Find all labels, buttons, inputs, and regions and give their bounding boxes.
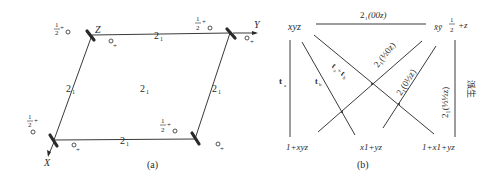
half-plus-marker-bottomright: 1 2 + xyxy=(160,117,177,134)
svg-text:+: + xyxy=(220,145,224,153)
half-plus-marker-topright: 1 2 + xyxy=(195,15,212,32)
screw-label-right: 2 1 xyxy=(212,83,221,95)
svg-text:1: 1 xyxy=(160,36,163,42)
svg-text:2: 2 xyxy=(140,83,145,94)
svg-text:+: + xyxy=(76,146,80,154)
screw-label-top: 2 1 xyxy=(154,30,163,42)
screw-label-bottom: 2 1 xyxy=(120,135,129,147)
z-axis-label: Z xyxy=(95,24,101,35)
svg-text:1: 1 xyxy=(196,15,200,23)
label-xyz: xyz xyxy=(287,21,301,32)
panel-a: Z Y X 2 1 2 1 2 1 2 1 2 1 1 2 + xyxy=(27,15,261,171)
label-1-plus-xyz: 1+xyz xyxy=(286,142,309,152)
svg-text:+: + xyxy=(250,38,254,46)
svg-text:t: t xyxy=(315,77,318,86)
diagonal-tb xyxy=(302,42,355,135)
screw-label-center: 2 1 xyxy=(140,83,149,95)
label-ta: t a xyxy=(279,76,287,88)
svg-text:2: 2 xyxy=(450,26,454,34)
svg-text:t: t xyxy=(279,76,282,86)
svg-text:2: 2 xyxy=(154,30,159,41)
plus-circle-marker-bottomright: + xyxy=(216,142,224,153)
diagonal-screw-0-half-z xyxy=(383,46,436,128)
panel-b-caption: (b) xyxy=(357,159,369,171)
svg-text:2: 2 xyxy=(28,121,32,129)
svg-text:b: b xyxy=(341,76,347,82)
svg-text:2: 2 xyxy=(212,83,217,94)
intersection-point xyxy=(341,111,343,113)
label-ta-plus-tb: t a + t b xyxy=(329,61,350,81)
svg-text:2: 2 xyxy=(55,29,59,37)
svg-text:+: + xyxy=(202,18,206,26)
svg-text:+z: +z xyxy=(458,20,468,30)
label-screw-half-half-z: 2₁(½½z) xyxy=(440,87,450,118)
panel-a-caption: (a) xyxy=(147,159,158,171)
intersection-point xyxy=(371,83,373,85)
svg-text:1: 1 xyxy=(161,117,165,125)
side-text-derived: 派生 xyxy=(466,80,477,98)
x-axis-label: X xyxy=(43,157,51,168)
half-plus-marker-topleft: 1 2 + xyxy=(54,21,70,37)
intersection-point xyxy=(398,103,400,105)
svg-text:1: 1 xyxy=(55,21,59,29)
panel-b: xyz 2 1 (00z) x̄ȳ 1 2 +z t a xyxy=(279,10,477,171)
svg-text:a: a xyxy=(284,83,287,88)
svg-text:2: 2 xyxy=(66,83,71,94)
svg-text:2: 2 xyxy=(360,10,365,20)
svg-text:+: + xyxy=(167,121,171,129)
svg-text:1: 1 xyxy=(28,113,32,121)
svg-text:2: 2 xyxy=(161,126,165,134)
svg-text:+: + xyxy=(60,24,64,32)
label-1-plus-x1-plus-yz: 1+x1+yz xyxy=(422,142,455,152)
svg-text:1: 1 xyxy=(72,89,75,95)
crystallographic-diagram: Z Y X 2 1 2 1 2 1 2 1 2 1 1 2 + xyxy=(0,0,494,181)
label-xbar-ybar-half-z: x̄ȳ 1 2 +z xyxy=(433,16,468,34)
screw-axis-icon xyxy=(192,133,199,144)
svg-text:1: 1 xyxy=(146,89,149,95)
plus-circle-marker-topleft: + xyxy=(109,39,117,50)
svg-text:b: b xyxy=(319,82,322,87)
svg-text:2: 2 xyxy=(120,135,125,146)
svg-text:1: 1 xyxy=(126,141,129,147)
label-x1-plus-yz: x1+yz xyxy=(359,142,383,152)
half-plus-marker-bottomleft: 1 2 + xyxy=(27,113,38,134)
cell-edge-top xyxy=(92,33,230,35)
plus-circle-marker-topright: + xyxy=(245,36,254,46)
svg-text:1: 1 xyxy=(218,89,221,95)
svg-text:x̄ȳ: x̄ȳ xyxy=(433,22,443,32)
svg-text:+: + xyxy=(113,42,117,50)
label-screw-half-0-z: 2₁(½0z) xyxy=(372,40,398,69)
svg-text:(00z): (00z) xyxy=(368,10,387,20)
plus-circle-marker-bottomleft: + xyxy=(72,143,80,154)
y-axis-arrow-icon xyxy=(252,31,258,35)
y-axis-label: Y xyxy=(254,19,261,30)
top-line-label: 2 1 (00z) xyxy=(360,10,387,21)
cell-edge-left xyxy=(54,35,92,140)
svg-text:1: 1 xyxy=(450,16,454,24)
svg-text:+: + xyxy=(34,117,38,125)
label-tb: t b xyxy=(315,77,322,87)
svg-text:2: 2 xyxy=(196,24,200,32)
